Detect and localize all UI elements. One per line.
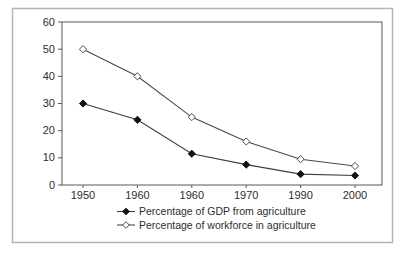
x-axis-tick-label: 1960 [125,189,149,201]
agriculture-chart-figure: Per cent 0102030405060195019601960197019… [0,0,405,256]
y-axis-tick-label: 30 [43,97,55,109]
x-axis-tick-label: 1950 [71,189,95,201]
y-axis-tick-label: 0 [49,179,55,191]
y-axis-tick-label: 20 [43,124,55,136]
x-axis-tick-label: 1990 [288,189,312,201]
x-axis-tick-label: 2000 [343,189,367,201]
y-axis-tick-label: 10 [43,151,55,163]
legend-label-gdp: Percentage of GDP from agriculture [139,205,306,217]
agriculture-chart: Per cent 0102030405060195019601960197019… [0,0,405,256]
y-axis-tick-label: 40 [43,70,55,82]
y-axis-tick-label: 60 [43,16,55,28]
legend-label-workforce: Percentage of workforce in agriculture [139,219,316,231]
y-axis-tick-label: 50 [43,43,55,55]
x-axis-tick-label: 1970 [234,189,258,201]
x-axis-tick-label: 1960 [180,189,204,201]
